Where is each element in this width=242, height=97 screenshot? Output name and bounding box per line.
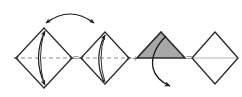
- shape-plain-diamond: [192, 32, 238, 84]
- shape-diamond-with-fold-arrow-1: [14, 28, 74, 88]
- shape-diamond-with-fold-arrow-2: [79, 32, 131, 84]
- shape-shaded-folded-triangle: [137, 32, 185, 86]
- shaded-triangle: [137, 32, 185, 58]
- top-rotation-arc: [46, 14, 94, 23]
- top-rotation-arc-path: [46, 14, 94, 23]
- diagram-canvas: = + =: [0, 0, 242, 97]
- equals-sign-1: =: [73, 51, 79, 63]
- fold-equivalence-diagram: = + =: [0, 0, 242, 97]
- equals-sign-2: =: [186, 51, 192, 63]
